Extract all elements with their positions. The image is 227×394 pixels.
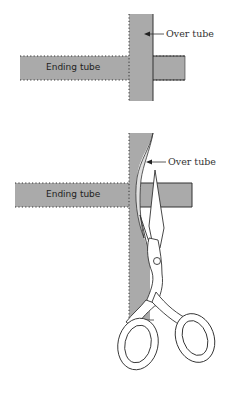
- over-tube-pointer-arrow: [146, 160, 166, 165]
- ending-tube-label-panel-1: Ending tube: [46, 63, 100, 72]
- over-tube-label-panel-2: Over tube: [168, 157, 216, 167]
- over-tube-label-panel-1: Over tube: [166, 29, 214, 39]
- ending-tube: [20, 56, 185, 80]
- ending-tube-label-panel-2: Ending tube: [46, 190, 100, 199]
- diagram-canvas: [0, 0, 227, 394]
- panel-cutting: [15, 133, 221, 374]
- ending-tube: [15, 183, 192, 207]
- over-tube: [129, 14, 153, 101]
- panel-before-cut: [20, 14, 185, 101]
